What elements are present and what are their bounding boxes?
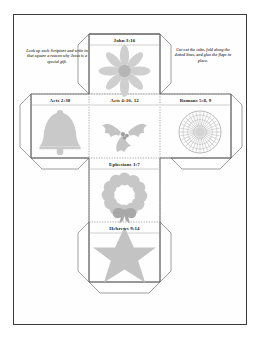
instruction-right: Cut out the cube, fold along the dotted … (172, 47, 234, 63)
flap-left-side (20, 94, 31, 158)
panel-label-left: Acts 2:38 (32, 98, 88, 103)
flap-back-bottom (89, 282, 160, 293)
worksheet-page: Look up each Scripture and write in that… (13, 14, 247, 325)
panel-label-front: Acts 4:10, 12 (90, 98, 159, 103)
flap-left-bottom (31, 158, 89, 169)
panel-label-back: Hebrews 9:14 (90, 226, 159, 231)
panel-label-bottom: Ephesians 1:7 (90, 162, 159, 167)
flap-back-right (160, 222, 171, 282)
flap-right-side (231, 94, 242, 158)
flap-back-left (78, 222, 89, 282)
panel-label-top: John 3:16 (90, 38, 159, 43)
panel-label-right: Romans 5:8, 9 (161, 98, 230, 103)
flap-top-right (160, 34, 171, 94)
instruction-left: Look up each Scripture and write in that… (26, 48, 88, 64)
panel-art-ornament (179, 111, 221, 153)
flap-right-bottom (171, 158, 231, 169)
